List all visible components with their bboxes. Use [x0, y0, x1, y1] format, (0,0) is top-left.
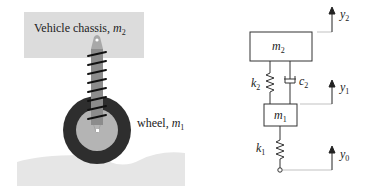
spring-k1	[276, 126, 284, 168]
spring-k1-label: k1	[256, 142, 265, 157]
wheel-label: wheel, m1	[137, 117, 184, 132]
strut-body	[91, 49, 103, 125]
mass-m2-label: m2	[272, 40, 285, 55]
axle-point	[96, 129, 99, 132]
chassis-label: Vehicle chassis, m2	[34, 22, 126, 37]
spring-k2	[266, 61, 274, 104]
displacement-y1-label: y1	[340, 81, 349, 96]
mass-m1-label: m1	[274, 109, 287, 124]
damper-c2-label: c2	[299, 75, 308, 90]
spring-k2-label: k2	[251, 77, 260, 92]
displacement-y0-label: y0	[340, 148, 349, 163]
displacement-y2-label: y2	[340, 8, 349, 23]
